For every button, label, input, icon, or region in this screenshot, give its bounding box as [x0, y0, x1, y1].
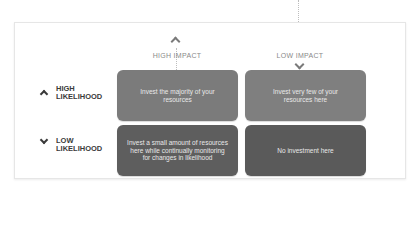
row-label-low-likelihood: LOW LIKELIHOOD	[56, 137, 102, 153]
cell-high-impact-low-likelihood: Invest a small amount of resources here …	[117, 125, 238, 176]
row-label-high-likelihood: HIGH LIKELIHOOD	[56, 85, 102, 101]
cell-high-impact-high-likelihood: Invest the majority of your resources	[117, 70, 238, 121]
column-header-low-impact: LOW IMPACT	[245, 52, 355, 59]
cell-low-impact-low-likelihood: No investment here	[245, 125, 366, 176]
cell-low-impact-high-likelihood: Invest very few of your resources here	[245, 70, 366, 121]
column-header-high-impact: HIGH IMPACT	[122, 52, 232, 59]
